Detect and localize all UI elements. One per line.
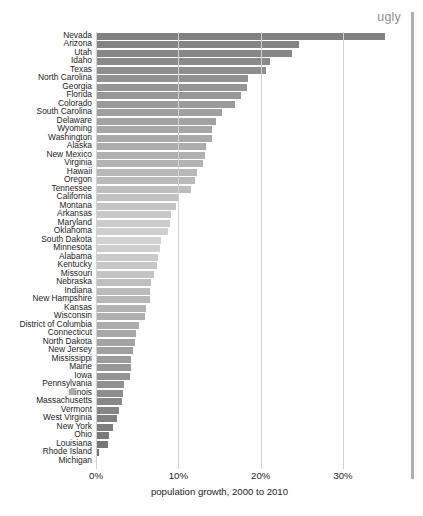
bar-row: Indiana [96, 287, 423, 296]
bar-row: Connecticut [96, 330, 423, 339]
bar [96, 373, 130, 380]
bar [96, 186, 191, 193]
bar [96, 254, 158, 261]
bar [96, 262, 157, 269]
gridline-30% [343, 32, 344, 469]
bar-row: Mississippi [96, 355, 423, 364]
bar [96, 109, 222, 116]
bar-row: Virginia [96, 160, 423, 169]
bar-row: Oklahoma [96, 228, 423, 237]
bar [96, 313, 145, 320]
bar [96, 322, 139, 329]
bar [96, 339, 135, 346]
category-label: Michigan [58, 456, 92, 466]
bar-row: Minnesota [96, 245, 423, 254]
bar-row: North Carolina [96, 75, 423, 84]
bar-row: Louisiana [96, 440, 423, 449]
gridline-10% [178, 32, 179, 469]
bar-row: Texas [96, 66, 423, 75]
bar [96, 237, 161, 244]
x-tick-label: 20% [251, 470, 270, 481]
bar-row: Florida [96, 92, 423, 101]
bar-row: Wyoming [96, 126, 423, 135]
bar [96, 347, 133, 354]
bar [96, 84, 247, 91]
bar [96, 160, 203, 167]
bar [96, 441, 108, 448]
bar-row: Montana [96, 202, 423, 211]
bar-row: West Virginia [96, 415, 423, 424]
bar [96, 126, 212, 133]
bar-row: Pennsylvania [96, 381, 423, 390]
bar-row: Illinois [96, 389, 423, 398]
bar [96, 279, 151, 286]
plot-area: NevadaArizonaUtahIdahoTexasNorth Carolin… [96, 32, 343, 466]
bar [96, 288, 150, 295]
bar-row: California [96, 194, 423, 203]
bar [96, 169, 197, 176]
bar [96, 152, 205, 159]
bar-row: Arkansas [96, 211, 423, 220]
bar-rows: NevadaArizonaUtahIdahoTexasNorth Carolin… [96, 32, 423, 466]
bar [96, 432, 109, 439]
bar [96, 135, 212, 142]
gridline-20% [261, 32, 262, 469]
bar-row: Michigan [96, 457, 423, 466]
bar [96, 415, 117, 422]
bar-row: Massachusetts [96, 398, 423, 407]
bar [96, 41, 299, 48]
bar [96, 67, 266, 74]
bar [96, 398, 122, 405]
bar-row: Washington [96, 134, 423, 143]
bar [96, 33, 385, 40]
x-axis-label: population growth, 2000 to 2010 [96, 486, 343, 497]
bar [96, 245, 160, 252]
bar [96, 390, 123, 397]
x-tick-label: 0% [89, 470, 103, 481]
bar-row: Wisconsin [96, 313, 423, 322]
bar-row: Georgia [96, 83, 423, 92]
bar [96, 50, 292, 57]
bar-row: Delaware [96, 117, 423, 126]
bar-row: New Mexico [96, 151, 423, 160]
bar [96, 330, 136, 337]
bar [96, 203, 176, 210]
bar [96, 194, 178, 201]
bar-row: New Jersey [96, 347, 423, 356]
ugly-annotation-label: ugly [377, 10, 401, 24]
bar-row: Alaska [96, 143, 423, 152]
bar [96, 424, 113, 431]
bar [96, 75, 248, 82]
bar-row: Nevada [96, 32, 423, 41]
bar-row: Idaho [96, 58, 423, 67]
bar-row: South Dakota [96, 236, 423, 245]
bar-row: Alabama [96, 253, 423, 262]
bar-row: Kentucky [96, 262, 423, 271]
bar [96, 228, 168, 235]
bar [96, 364, 131, 371]
bar-row: Utah [96, 49, 423, 58]
bar [96, 92, 241, 99]
bar-row: Kansas [96, 304, 423, 313]
bar-row: Hawaii [96, 168, 423, 177]
x-tick-label: 10% [169, 470, 188, 481]
bar-row: Tennessee [96, 185, 423, 194]
bar-row: South Carolina [96, 109, 423, 118]
bar [96, 177, 195, 184]
bar-row: Oregon [96, 177, 423, 186]
bar-row: New Hampshire [96, 296, 423, 305]
bar [96, 101, 235, 108]
bar-row: Colorado [96, 100, 423, 109]
bar-row: Maryland [96, 219, 423, 228]
bar-row: Missouri [96, 270, 423, 279]
bar [96, 211, 171, 218]
gridline-0% [96, 32, 97, 469]
x-tick-label: 30% [333, 470, 352, 481]
bar [96, 356, 131, 363]
bar-row: District of Columbia [96, 321, 423, 330]
bar [96, 220, 170, 227]
bar [96, 407, 119, 414]
bar [96, 296, 150, 303]
bar-row: New York [96, 423, 423, 432]
bar [96, 118, 216, 125]
